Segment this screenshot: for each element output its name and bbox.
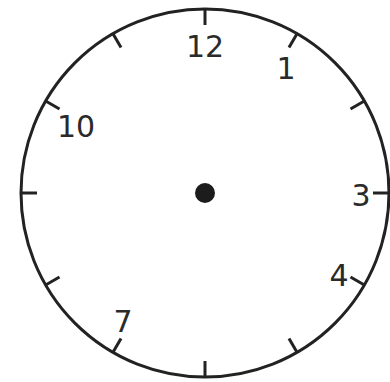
center-hub-dot: [195, 183, 215, 203]
hour-number-12: 12: [186, 29, 224, 64]
tick-mark-1: [289, 34, 297, 48]
tick-mark-4: [350, 277, 364, 285]
tick-mark-5: [289, 338, 297, 352]
hour-number-4: 4: [329, 258, 348, 293]
clock-face: 12 1 3 4 7 10: [0, 0, 390, 382]
tick-mark-2: [350, 101, 364, 109]
tick-mark-7: [113, 338, 121, 352]
hour-numbers: 12 1 3 4 7 10: [57, 29, 371, 339]
tick-mark-11: [113, 34, 121, 48]
tick-mark-8: [46, 277, 60, 285]
hour-number-1: 1: [276, 51, 295, 86]
hour-number-10: 10: [57, 109, 95, 144]
hour-number-7: 7: [113, 304, 132, 339]
tick-mark-10: [46, 101, 60, 109]
hour-number-3: 3: [351, 178, 370, 213]
